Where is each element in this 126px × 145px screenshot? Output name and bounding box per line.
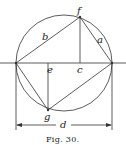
label-a: a <box>97 34 103 45</box>
label-e: e <box>47 64 53 75</box>
label-b: b <box>42 31 48 42</box>
chord-a <box>80 17 112 63</box>
arrowhead-left-icon <box>16 123 22 127</box>
figure-30-diagram: f b a e c g d Fig. 30. <box>0 0 126 145</box>
label-d: d <box>60 119 66 130</box>
label-f: f <box>76 5 83 16</box>
label-c: c <box>77 64 83 75</box>
chord-left-g <box>16 63 48 110</box>
figure-caption: Fig. 30. <box>46 135 79 144</box>
label-g: g <box>44 111 50 122</box>
point-f <box>79 16 81 18</box>
arrowhead-right-icon <box>106 123 112 127</box>
